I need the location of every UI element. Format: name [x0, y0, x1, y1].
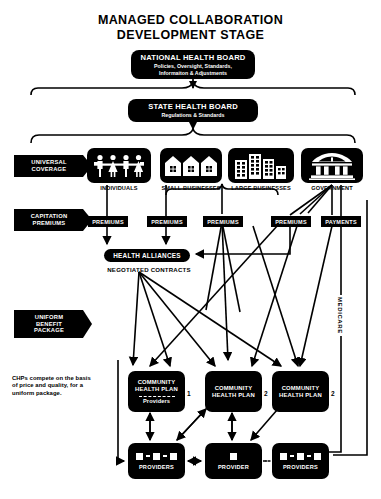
chp-1-title-line-2: HEALTH PLAN: [135, 386, 178, 392]
state-health-board[interactable]: STATE HEALTH BOARD Regulations & Standar…: [128, 99, 258, 122]
medicare-label: MEDICARE: [336, 295, 344, 336]
chp-1-divider: [139, 396, 175, 397]
providers-group-1[interactable]: PROVIDERS: [128, 443, 185, 479]
premiums-tag-individuals: PREMIUMS: [88, 216, 128, 227]
chp-1-providers-label: Providers: [143, 398, 170, 404]
universal-coverage-flag: UNIVERSAL COVERAGE: [14, 155, 92, 177]
national-health-board-title: NATIONAL HEALTH BOARD: [140, 53, 245, 62]
capitol-building-icon: [301, 148, 363, 183]
chp-2-title-line-1: COMMUNITY: [215, 385, 253, 391]
premiums-tag-government: PREMIUMS: [271, 216, 311, 227]
uniform-benefit-package-flag: UNIFORM BENEFIT PACKAGE: [14, 310, 92, 338]
provider-single[interactable]: PROVIDER: [205, 443, 262, 479]
providers-group-2-label: PROVIDERS: [283, 464, 318, 470]
universal-coverage-line-1: UNIVERSAL: [31, 159, 66, 166]
chp-2-number: 2: [264, 390, 268, 397]
sector-government[interactable]: GOVERNMENT: [301, 148, 363, 191]
national-health-board[interactable]: NATIONAL HEALTH BOARD Policies, Oversigh…: [131, 50, 255, 79]
uniform-line-1: UNIFORM: [34, 314, 64, 321]
provider-single-icon: [230, 453, 237, 460]
providers-group-1-icon: [136, 453, 177, 460]
chp-3-number: 2: [331, 390, 335, 397]
providers-group-1-label: PROVIDERS: [139, 464, 174, 470]
capitation-line-2: PREMIUMS: [31, 220, 68, 227]
state-health-board-title: STATE HEALTH BOARD: [148, 102, 238, 111]
sector-individuals[interactable]: INDIVIDUALS: [87, 148, 151, 191]
office-buildings-icon: [228, 148, 294, 183]
universal-coverage-line-2: COVERAGE: [31, 166, 66, 173]
premiums-tag-large-businesses: PREMIUMS: [203, 216, 243, 227]
national-health-board-subtitle-1: Policies, Oversight, Standards,: [154, 63, 232, 69]
state-health-board-subtitle: Regulations & Standards: [162, 112, 225, 119]
sector-government-label: GOVERNMENT: [301, 185, 363, 191]
community-health-plan-2[interactable]: COMMUNITY HEALTH PLAN: [205, 371, 262, 412]
provider-single-label: PROVIDER: [218, 464, 249, 470]
sector-small-businesses-label: SMALL BUSINESSES: [160, 185, 222, 191]
chp-2-title-line-2: HEALTH PLAN: [212, 392, 255, 398]
premiums-tag-small-businesses: PREMIUMS: [147, 216, 187, 227]
sector-small-businesses[interactable]: SMALL BUSINESSES: [160, 148, 222, 191]
chp-1-number: 1: [187, 390, 191, 397]
sector-large-businesses-label: LARGE BUSINESSES: [228, 185, 294, 191]
national-health-board-subtitle-2: Informaiton & Adjustments: [159, 70, 227, 76]
houses-icon: [160, 148, 222, 183]
health-alliances-node[interactable]: HEALTH ALLIANCES: [104, 249, 190, 262]
community-health-plan-3[interactable]: COMMUNITY HEALTH PLAN: [272, 371, 329, 412]
capitation-line-1: CAPITATION: [31, 213, 68, 220]
providers-group-2[interactable]: PROVIDERS: [272, 443, 329, 479]
page-title: MANAGED COLLABORATION DEVELOPMENT STAGE: [0, 13, 381, 43]
family-people-icon: [87, 148, 151, 183]
providers-group-2-icon: [280, 453, 321, 460]
chp-competition-note: CHPs compete on the basis of price and q…: [12, 375, 98, 397]
title-line-2: DEVELOPMENT STAGE: [0, 28, 381, 43]
chp-3-title-line-1: COMMUNITY: [282, 385, 320, 391]
chp-3-title-line-2: HEALTH PLAN: [279, 392, 322, 398]
uniform-line-3: PACKAGE: [34, 327, 64, 334]
sector-large-businesses[interactable]: LARGE BUSINESSES: [228, 148, 294, 191]
uniform-line-2: BENEFIT: [34, 321, 64, 328]
title-line-1: MANAGED COLLABORATION: [98, 13, 283, 27]
diagram-canvas: MANAGED COLLABORATION DEVELOPMENT STAGE: [0, 0, 381, 499]
chp-1-title-line-1: COMMUNITY: [138, 379, 176, 385]
negotiated-contracts-label: NEGOTIATED CONTRACTS: [104, 266, 194, 273]
capitation-premiums-flag: CAPITATION PREMIUMS: [14, 209, 92, 231]
payments-tag: PAYMENTS: [321, 216, 361, 227]
community-health-plan-1[interactable]: COMMUNITY HEALTH PLAN Providers: [128, 371, 185, 412]
sector-individuals-label: INDIVIDUALS: [87, 185, 151, 191]
